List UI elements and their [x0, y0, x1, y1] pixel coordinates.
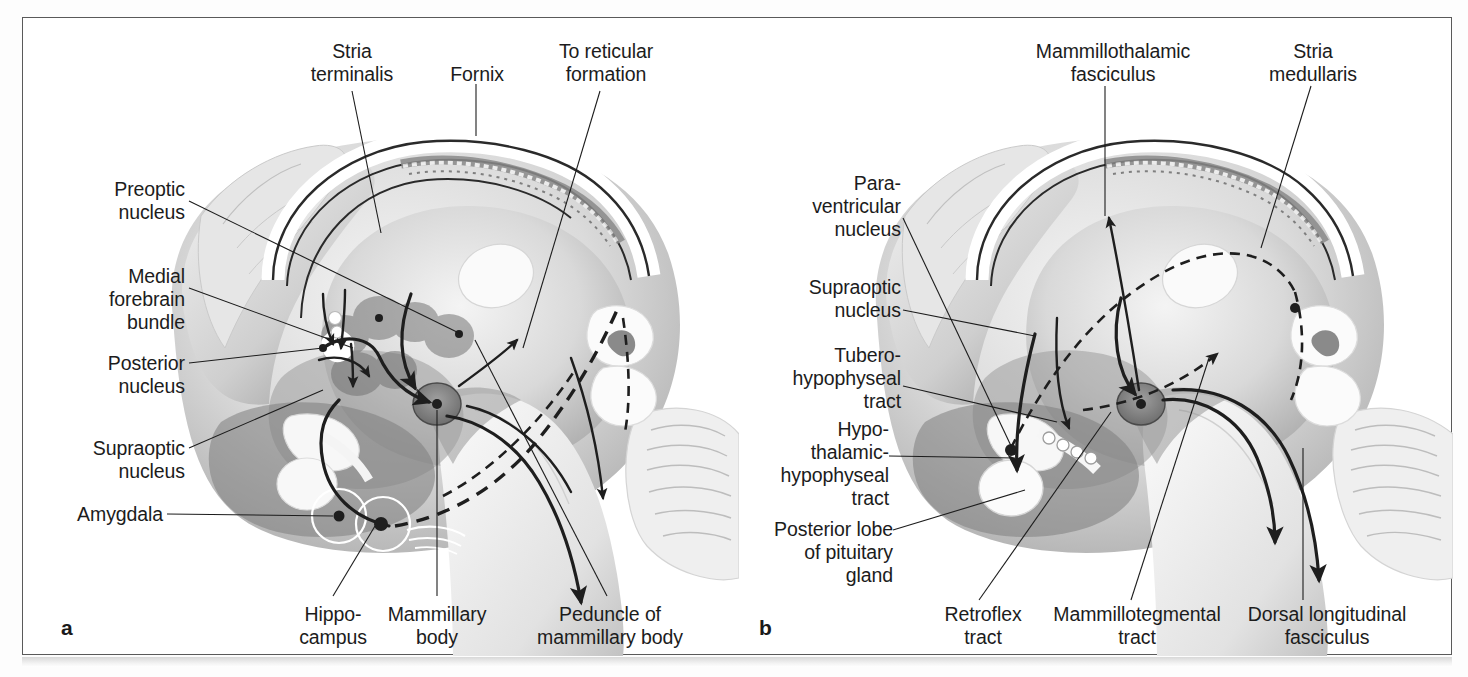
- label-amygdala: Amygdala: [33, 503, 163, 526]
- leader-stria-terminalis: [352, 91, 381, 233]
- leader-lines-a: [23, 18, 739, 656]
- label-to-reticular-formation: To reticular formation: [531, 40, 681, 86]
- leader-mammillotegmental-tract: [1131, 358, 1209, 600]
- leader-hippocampus: [333, 526, 375, 596]
- label-hypothalamic-hypophyseal-tract: Hypo- thalamic- hypophyseal tract: [741, 418, 889, 510]
- leader-amygdala: [167, 514, 333, 516]
- label-stria-medullaris: Stria medullaris: [1247, 40, 1379, 86]
- leader-paraventricular-nucleus: [903, 218, 1013, 450]
- panel-letter-b: b: [759, 616, 772, 640]
- label-posterior-nucleus: Posterior nucleus: [43, 352, 185, 398]
- leader-posterior-nucleus: [189, 348, 323, 363]
- label-supraoptic-nucleus-b: Supraoptic nucleus: [749, 276, 901, 322]
- label-fornix: Fornix: [423, 63, 531, 86]
- panel-letter-a: a: [61, 616, 73, 640]
- label-medial-forebrain-bundle: Medial forebrain bundle: [43, 265, 185, 334]
- leader-stria-medullaris: [1261, 86, 1311, 248]
- label-peduncle-of-mammillary-body: Peduncle of mammillary body: [513, 603, 707, 649]
- leader-supraoptic-nucleus-b: [903, 310, 1035, 336]
- label-mammillothalamic-fasciculus: Mammillothalamic fasciculus: [1015, 40, 1211, 86]
- label-retroflex-tract: Retroflex tract: [925, 603, 1041, 649]
- leader-posterior-lobe-pituitary: [893, 490, 1025, 530]
- panel-b: Mammillothalamic fasciculus Stria medull…: [739, 18, 1453, 656]
- figure-frame: Stria terminalis Fornix To reticular for…: [22, 17, 1452, 655]
- label-stria-terminalis: Stria terminalis: [281, 40, 423, 86]
- figure-root: Stria terminalis Fornix To reticular for…: [0, 0, 1468, 677]
- label-supraoptic-nucleus: Supraoptic nucleus: [33, 437, 185, 483]
- page-edge-shadow: [22, 657, 1452, 667]
- leader-hypothalamic-hypophyseal-tract: [889, 456, 1015, 458]
- leader-medial-forebrain-bundle: [189, 288, 353, 348]
- label-posterior-lobe-of-pituitary-gland: Posterior lobe of pituitary gland: [741, 518, 893, 587]
- leader-tuberohypophyseal-tract: [903, 386, 1057, 422]
- leader-to-reticular-formation: [523, 91, 600, 348]
- label-mammillotegmental-tract: Mammillotegmental tract: [1039, 603, 1235, 649]
- leader-preoptic-nucleus: [189, 201, 461, 334]
- label-paraventricular-nucleus: Para- ventricular nucleus: [749, 172, 901, 241]
- leader-peduncle-mammillary-body: [475, 340, 607, 596]
- leader-supraoptic-nucleus: [189, 390, 323, 448]
- leader-retroflex-tract: [979, 412, 1111, 600]
- label-preoptic-nucleus: Preoptic nucleus: [43, 178, 185, 224]
- label-mammillary-body: Mammillary body: [371, 603, 503, 649]
- panel-a: Stria terminalis Fornix To reticular for…: [23, 18, 739, 656]
- label-dorsal-longitudinal-fasciculus: Dorsal longitudinal fasciculus: [1223, 603, 1431, 649]
- label-tuberohypophyseal-tract: Tubero- hypophyseal tract: [741, 344, 901, 413]
